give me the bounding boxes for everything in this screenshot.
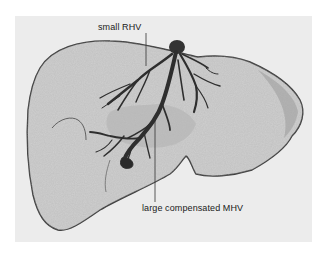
liver-diagram (0, 0, 326, 254)
label-large-compensated-mhv: large compensated MHV (142, 203, 243, 213)
liver-outline (27, 41, 303, 230)
label-small-rhv: small RHV (98, 22, 141, 32)
